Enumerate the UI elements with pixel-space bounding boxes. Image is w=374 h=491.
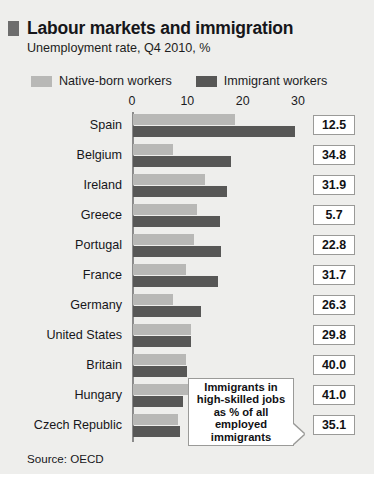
row-label-hungary: Hungary	[0, 388, 122, 402]
chart-row: Germany26.3	[0, 292, 374, 322]
x-tick-label-10: 10	[180, 94, 194, 108]
legend-swatch-native	[31, 76, 52, 87]
value-box: 26.3	[313, 295, 355, 315]
row-bars	[133, 234, 313, 260]
row-bars	[133, 204, 313, 230]
chart-subtitle: Unemployment rate, Q4 2010, %	[27, 41, 374, 56]
row-bars	[133, 294, 313, 320]
legend-entry-native: Native-born workers	[31, 74, 172, 88]
callout-line: immigrants	[211, 431, 271, 444]
bar-native-born	[133, 144, 173, 155]
bar-native-born	[133, 204, 197, 215]
chart-row: Czech Republic35.1	[0, 412, 374, 442]
chart-row: Spain12.5	[0, 112, 374, 142]
chart-row: Britain40.0	[0, 352, 374, 382]
bar-immigrant	[133, 396, 183, 407]
bar-native-born	[133, 324, 191, 335]
callout-line: Immigrants in	[204, 381, 277, 394]
value-box: 40.0	[313, 355, 355, 375]
value-box: 5.7	[313, 205, 355, 225]
bar-native-born	[133, 264, 186, 275]
bar-native-born	[133, 234, 194, 245]
bar-immigrant	[133, 156, 231, 167]
x-axis-tick-labels: 0102030	[0, 94, 374, 110]
chart-row: Ireland31.9	[0, 172, 374, 202]
legend-entry-immigrant: Immigrant workers	[196, 74, 328, 88]
bar-immigrant	[133, 246, 221, 257]
callout-line: employed	[215, 418, 267, 431]
callout-line: high-skilled jobs	[197, 393, 285, 406]
x-tick-label-30: 30	[291, 94, 305, 108]
value-box: 29.8	[313, 325, 355, 345]
row-bars	[133, 114, 313, 140]
bar-immigrant	[133, 426, 180, 437]
title-marker-square	[8, 21, 19, 36]
chart-row: Portugal22.8	[0, 232, 374, 262]
legend-label-native: Native-born workers	[59, 74, 172, 88]
row-label-spain: Spain	[0, 118, 122, 132]
bar-immigrant	[133, 336, 191, 347]
row-bars	[133, 144, 313, 170]
bar-native-born	[133, 114, 235, 125]
row-label-belgium: Belgium	[0, 148, 122, 162]
bar-native-born	[133, 174, 205, 185]
legend-label-immigrant: Immigrant workers	[224, 74, 328, 88]
value-box: 31.7	[313, 265, 355, 285]
bar-native-born	[133, 354, 186, 365]
title-row: Labour markets and immigration	[0, 18, 374, 38]
value-box: 34.8	[313, 145, 355, 165]
chart-plot-rows: Spain12.5Belgium34.8Ireland31.9Greece5.7…	[0, 112, 374, 442]
bar-native-born	[133, 294, 173, 305]
row-label-greece: Greece	[0, 208, 122, 222]
bar-immigrant	[133, 306, 201, 317]
bar-immigrant	[133, 126, 295, 137]
row-bars	[133, 264, 313, 290]
value-box: 31.9	[313, 175, 355, 195]
row-label-united-states: United States	[0, 328, 122, 342]
x-tick-label-0: 0	[129, 94, 136, 108]
value-box: 22.8	[313, 235, 355, 255]
chart-row: Greece5.7	[0, 202, 374, 232]
row-label-portugal: Portugal	[0, 238, 122, 252]
callout-box: Immigrants inhigh-skilled jobsas % of al…	[188, 378, 294, 446]
row-label-germany: Germany	[0, 298, 122, 312]
chart-row: France31.7	[0, 262, 374, 292]
row-bars	[133, 354, 313, 380]
row-label-france: France	[0, 268, 122, 282]
bar-immigrant	[133, 216, 220, 227]
chart-legend: Native-born workers Immigrant workers	[0, 73, 374, 89]
row-label-czech-republic: Czech Republic	[0, 418, 122, 432]
chart-row: United States29.8	[0, 322, 374, 352]
callout-line: as % of all	[214, 406, 269, 419]
page-title: Labour markets and immigration	[27, 18, 293, 38]
chart-row: Hungary41.0	[0, 382, 374, 412]
chart-figure: Labour markets and immigration Unemploym…	[0, 0, 374, 474]
row-label-britain: Britain	[0, 358, 122, 372]
bar-native-born	[133, 414, 178, 425]
x-tick-label-20: 20	[236, 94, 250, 108]
row-label-ireland: Ireland	[0, 178, 122, 192]
bar-immigrant	[133, 276, 218, 287]
bar-immigrant	[133, 186, 227, 197]
value-box: 41.0	[313, 385, 355, 405]
row-bars	[133, 324, 313, 350]
bar-immigrant	[133, 366, 187, 377]
chart-header: Labour markets and immigration Unemploym…	[0, 18, 374, 56]
value-box: 12.5	[313, 115, 355, 135]
callout-arrow-icon	[293, 424, 304, 444]
value-box: 35.1	[313, 415, 355, 435]
chart-row: Belgium34.8	[0, 142, 374, 172]
legend-swatch-immigrant	[196, 76, 217, 87]
source-note: Source: OECD	[27, 452, 104, 465]
row-bars	[133, 174, 313, 200]
